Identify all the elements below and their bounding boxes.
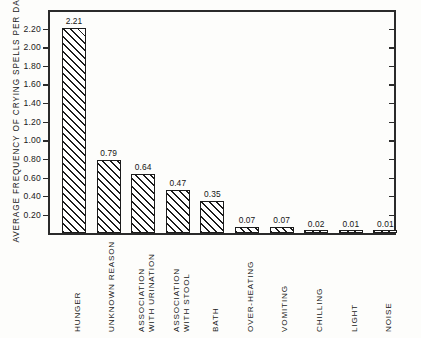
- bar: [200, 201, 224, 234]
- y-tick-left: [43, 84, 48, 85]
- y-tick-label: 2.20: [23, 24, 41, 34]
- x-tick-label: UNKNOWN REASON: [107, 241, 117, 332]
- y-tick-right: [389, 66, 395, 67]
- x-tick-label: CHILLING: [315, 288, 325, 332]
- y-axis-line: [48, 10, 50, 235]
- x-axis-line: [48, 233, 396, 235]
- y-tick-label: 0.40: [23, 191, 41, 201]
- y-tick-right: [389, 84, 395, 85]
- bar-value-label: 0.35: [193, 189, 231, 199]
- x-tick-label: NOISE: [384, 303, 394, 332]
- bar: [166, 190, 190, 234]
- bar: [62, 28, 86, 234]
- y-tick-label: 1.40: [23, 98, 41, 108]
- y-tick-right: [389, 159, 395, 160]
- x-tick-label: LIGHT: [350, 304, 360, 332]
- bar: [131, 174, 155, 234]
- y-tick-label: 1.00: [23, 135, 41, 145]
- bar-value-label: 0.47: [159, 178, 197, 188]
- y-tick-left: [43, 29, 48, 30]
- bar-value-label: 0.02: [297, 219, 335, 229]
- y-tick-left: [43, 159, 48, 160]
- bar-value-label: 0.64: [124, 162, 162, 172]
- plot-frame-top: [48, 10, 396, 12]
- x-tick-label: ASSOCIATIONWITH URINATION: [137, 253, 156, 332]
- bar: [270, 227, 294, 234]
- y-tick-label: 0.20: [23, 210, 41, 220]
- y-tick-left: [43, 103, 48, 104]
- plot-area: 0.200.400.600.801.001.201.401.601.802.00…: [48, 10, 396, 235]
- bar-value-label: 0.79: [90, 148, 128, 158]
- y-tick-label: 2.00: [23, 42, 41, 52]
- bar: [304, 230, 328, 233]
- y-tick-label: 1.20: [23, 117, 41, 127]
- y-tick-right: [389, 103, 395, 104]
- bar-value-label: 0.01: [366, 219, 404, 229]
- y-tick-right: [389, 29, 395, 30]
- y-tick-right: [389, 178, 395, 179]
- bar-value-label: 2.21: [55, 16, 93, 26]
- y-tick-left: [43, 66, 48, 67]
- y-tick-label: 1.60: [23, 79, 41, 89]
- x-tick-label: HUNGER: [73, 292, 83, 332]
- y-tick-left: [43, 196, 48, 197]
- x-tick-label: VOMITING: [280, 285, 290, 332]
- y-tick-left: [43, 122, 48, 123]
- bar-value-label: 0.07: [263, 215, 301, 225]
- y-tick-left: [43, 178, 48, 179]
- bar-chart-figure: AVERAGE FREQUENCY OF CRYING SPELLS PER D…: [0, 0, 421, 338]
- y-tick-right: [389, 140, 395, 141]
- y-tick-right: [389, 196, 395, 197]
- y-tick-right: [389, 215, 395, 216]
- bar: [97, 160, 121, 234]
- y-tick-label: 0.80: [23, 154, 41, 164]
- bar: [339, 230, 363, 233]
- y-tick-label: 1.80: [23, 61, 41, 71]
- y-tick-left: [43, 47, 48, 48]
- y-tick-right: [389, 122, 395, 123]
- y-tick-left: [43, 215, 48, 216]
- bar: [373, 230, 397, 233]
- y-axis-title: AVERAGE FREQUENCY OF CRYING SPELLS PER D…: [12, 3, 21, 243]
- bar-value-label: 0.07: [228, 215, 266, 225]
- y-tick-right: [389, 47, 395, 48]
- x-tick-label: BATH: [211, 308, 221, 332]
- bar: [235, 227, 259, 234]
- x-tick-label: ASSOCIATIONWITH STOOL: [172, 268, 191, 332]
- y-tick-label: 0.60: [23, 173, 41, 183]
- y-tick-left: [43, 140, 48, 141]
- bar-value-label: 0.01: [332, 219, 370, 229]
- x-tick-label: OVER-HEATING: [246, 261, 256, 332]
